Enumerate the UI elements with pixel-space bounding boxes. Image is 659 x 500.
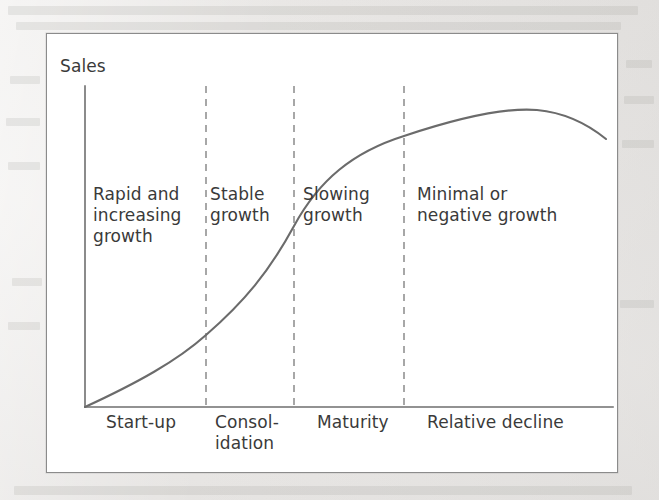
bleed-through-text (622, 140, 654, 148)
stage-label-consolidation: Consol- idation (215, 412, 279, 454)
bleed-through-text (10, 76, 40, 84)
stage-label-start-up: Start-up (106, 412, 176, 433)
bleed-through-text (8, 322, 40, 330)
bleed-through-text (620, 300, 654, 308)
zone-label-stable-growth: Stable growth (210, 184, 270, 226)
bleed-through-text (626, 60, 652, 68)
bleed-through-text (6, 118, 40, 126)
sales-lifecycle-chart (47, 34, 617, 472)
bleed-through-text (8, 6, 638, 15)
zone-label-minimal-negative-growth: Minimal or negative growth (417, 184, 557, 226)
zone-label-rapid-increasing-growth: Rapid and increasing growth (93, 184, 181, 247)
sales-curve-line (85, 110, 606, 407)
bleed-through-text (8, 162, 40, 170)
bleed-through-text (12, 278, 42, 286)
bleed-through-text (624, 96, 654, 104)
stage-label-relative-decline: Relative decline (427, 412, 564, 433)
zone-label-slowing-growth: Slowing growth (303, 184, 370, 226)
bleed-through-text (16, 22, 621, 30)
y-axis-label: Sales (60, 56, 106, 76)
figure-frame: Sales Rapid and increasing growth Stable… (46, 33, 618, 473)
bleed-through-text (14, 486, 632, 495)
stage-label-maturity: Maturity (317, 412, 389, 433)
